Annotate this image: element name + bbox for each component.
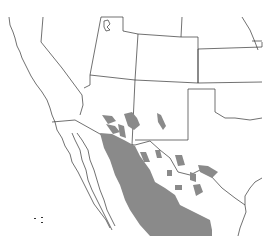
- map-canvas: [0, 0, 276, 238]
- gulf-coastline: [238, 178, 262, 236]
- nm-tx-border: [135, 89, 262, 140]
- az-nm-border: [132, 80, 135, 145]
- co-boundaries: [181, 37, 262, 83]
- northern-plains-borders: [242, 17, 262, 50]
- four-corners-line: [90, 75, 262, 83]
- ut-wy-border: [101, 17, 182, 80]
- nv-ut-border: [84, 17, 101, 88]
- channel-islands: [34, 217, 43, 223]
- species-range: [100, 112, 218, 236]
- great-salt-lake: [104, 20, 110, 31]
- range-map: [0, 0, 276, 238]
